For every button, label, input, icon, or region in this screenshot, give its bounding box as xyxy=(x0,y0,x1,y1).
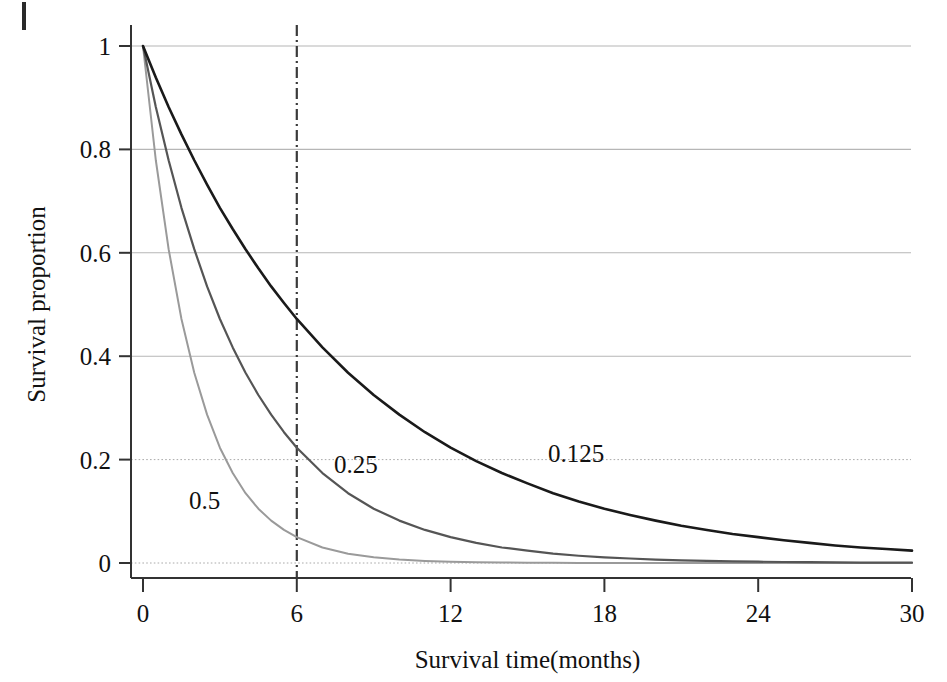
figure-page: 00.20.40.60.810612182430 0.50.250.125 Su… xyxy=(0,0,947,682)
axes xyxy=(119,25,912,592)
y-tick-label-1: 1 xyxy=(99,33,112,60)
curve-label-0-125: 0.125 xyxy=(548,440,604,467)
y-tick-label-0.2: 0.2 xyxy=(80,447,111,474)
curves xyxy=(143,46,912,563)
survival-curve-0-125 xyxy=(143,46,912,551)
x-tick-label-24: 24 xyxy=(746,600,772,627)
survival-curve-0-5 xyxy=(143,46,912,563)
x-tick-label-18: 18 xyxy=(592,600,617,627)
x-tick-label-30: 30 xyxy=(900,600,925,627)
x-tick-label-6: 6 xyxy=(291,600,304,627)
y-tick-label-0.8: 0.8 xyxy=(80,136,111,163)
survival-curve-chart: 00.20.40.60.810612182430 0.50.250.125 Su… xyxy=(0,0,947,682)
y-tick-label-0.6: 0.6 xyxy=(80,240,111,267)
annotations: 0.50.250.125 xyxy=(189,440,604,514)
y-axis-title: Survival proportion xyxy=(23,206,50,403)
curve-label-0-5: 0.5 xyxy=(189,487,220,514)
tick-labels: 00.20.40.60.810612182430 xyxy=(80,33,925,627)
x-tick-label-12: 12 xyxy=(438,600,463,627)
y-tick-label-0.4: 0.4 xyxy=(80,343,112,370)
survival-curve-0-25 xyxy=(143,46,912,563)
x-tick-label-0: 0 xyxy=(137,600,150,627)
y-tick-label-0: 0 xyxy=(99,550,112,577)
x-axis-title: Survival time(months) xyxy=(415,646,641,674)
curve-label-0-25: 0.25 xyxy=(334,451,378,478)
